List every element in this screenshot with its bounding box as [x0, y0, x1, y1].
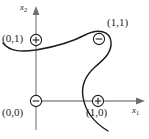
y-axis-arrow-icon: [33, 6, 40, 15]
point-label-p01: (0,1): [2, 33, 23, 44]
point-label-p00: (0,0): [2, 107, 23, 118]
point-marker-p00: [30, 95, 41, 106]
point-label-p10: (1,0): [86, 107, 107, 118]
y-axis: [33, 6, 40, 130]
xor-separating-curve-figure: (0,0) (0,1) (1,0) (1,1) x2 x1: [0, 0, 149, 139]
x-axis-label-subscript: 1: [136, 109, 139, 116]
y-axis-label: x2: [20, 3, 27, 12]
x-axis-label: x1: [132, 106, 139, 115]
x-axis-arrow-icon: [136, 98, 145, 105]
point-label-p11: (1,1): [107, 17, 128, 28]
point-marker-p11: [93, 33, 104, 44]
point-marker-p01: [30, 34, 41, 45]
point-marker-p10: [92, 95, 103, 106]
y-axis-label-subscript: 2: [24, 6, 27, 13]
x-axis: [30, 98, 145, 105]
